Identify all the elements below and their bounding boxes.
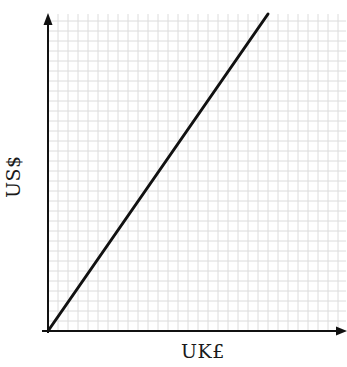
y-axis-label: US$ bbox=[2, 148, 28, 198]
x-axis-arrow-icon bbox=[336, 327, 347, 336]
grid-lines bbox=[48, 14, 346, 331]
x-axis-label: UK£ bbox=[181, 340, 225, 362]
chart-canvas bbox=[0, 0, 347, 367]
y-axis-arrow-icon bbox=[44, 13, 53, 25]
